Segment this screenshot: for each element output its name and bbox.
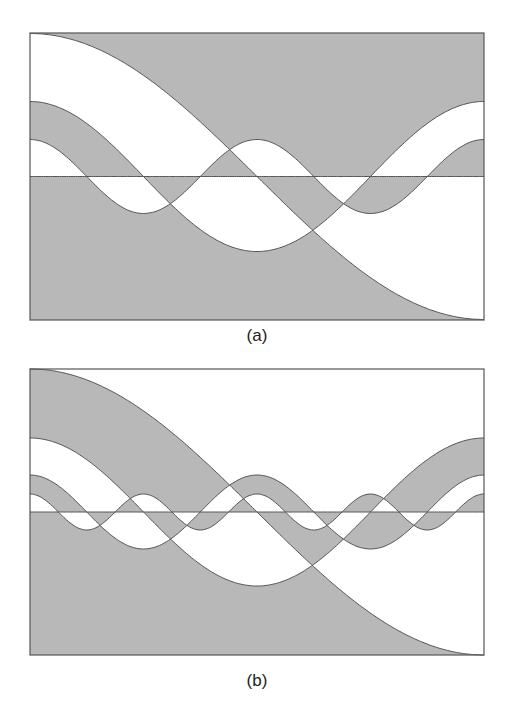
panel-label-b: (b): [247, 671, 268, 691]
diagram-canvas: [0, 0, 513, 712]
panel-a: [30, 33, 484, 320]
panel-label-a: (a): [247, 326, 268, 346]
panel-b: [30, 369, 484, 655]
